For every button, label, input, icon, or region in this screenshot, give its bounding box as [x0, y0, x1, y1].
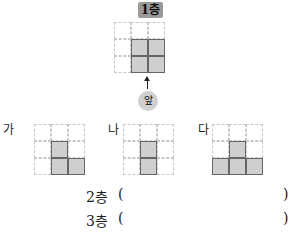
- open-paren: (: [118, 186, 123, 202]
- filled-cell: [131, 39, 148, 56]
- filled-cell: [246, 158, 263, 175]
- filled-cell: [212, 158, 229, 175]
- filled-cell: [68, 158, 85, 175]
- filled-cell: [51, 158, 68, 175]
- answer-label: 3층: [86, 210, 108, 230]
- option-grid-b[interactable]: [123, 124, 174, 175]
- filled-cell: [229, 158, 246, 175]
- empty-cell: [157, 141, 174, 158]
- empty-cell: [148, 22, 165, 39]
- floor-label-badge: 1층: [138, 2, 163, 18]
- empty-cell: [114, 22, 131, 39]
- option-label-b: 나: [108, 120, 119, 137]
- filled-cell: [140, 158, 157, 175]
- option-grid-c[interactable]: [212, 124, 263, 175]
- filled-cell: [148, 39, 165, 56]
- filled-cell: [148, 56, 165, 73]
- answer-blank[interactable]: [128, 210, 278, 228]
- empty-cell: [131, 22, 148, 39]
- close-paren: ): [283, 186, 288, 202]
- answer-row-floor2: 2층 ( ): [86, 186, 296, 204]
- empty-cell: [34, 141, 51, 158]
- option-label-a: 가: [3, 120, 14, 137]
- empty-cell: [114, 39, 131, 56]
- filled-cell: [229, 141, 246, 158]
- answer-row-floor3: 3층 ( ): [86, 210, 296, 228]
- open-paren: (: [118, 210, 123, 226]
- empty-cell: [123, 124, 140, 141]
- empty-cell: [229, 124, 246, 141]
- top-view-grid: [114, 22, 165, 73]
- empty-cell: [68, 124, 85, 141]
- empty-cell: [140, 124, 157, 141]
- empty-cell: [114, 56, 131, 73]
- filled-cell: [140, 141, 157, 158]
- empty-cell: [51, 124, 68, 141]
- filled-cell: [51, 141, 68, 158]
- close-paren: ): [283, 210, 288, 226]
- empty-cell: [212, 141, 229, 158]
- filled-cell: [131, 56, 148, 73]
- empty-cell: [68, 141, 85, 158]
- empty-cell: [212, 124, 229, 141]
- arrow-shaft: [147, 79, 148, 89]
- empty-cell: [123, 141, 140, 158]
- option-grid-a[interactable]: [34, 124, 85, 175]
- empty-cell: [157, 124, 174, 141]
- answer-blank[interactable]: [128, 186, 278, 204]
- empty-cell: [34, 124, 51, 141]
- empty-cell: [123, 158, 140, 175]
- empty-cell: [246, 124, 263, 141]
- empty-cell: [157, 158, 174, 175]
- option-label-c: 다: [198, 120, 209, 137]
- empty-cell: [34, 158, 51, 175]
- empty-cell: [246, 141, 263, 158]
- answer-label: 2층: [86, 186, 108, 206]
- front-label-badge: 앞: [138, 91, 158, 111]
